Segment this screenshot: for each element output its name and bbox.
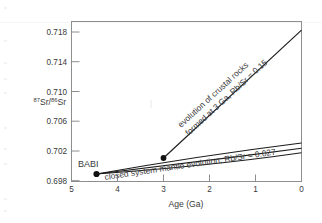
crustal-annotation-line1: evolution of crustal rocks (176, 60, 251, 130)
x-tick-label: 5 (69, 185, 74, 194)
babi-label: BABI (78, 159, 99, 169)
y-axis-title-sr-slash: Sr/ (40, 97, 52, 107)
svg-text:87Sr/86Sr: 87Sr/86Sr (34, 97, 67, 107)
x-tick-label: 0 (299, 185, 304, 194)
y-tick-label: 0.706 (47, 117, 68, 126)
mantle-annotation-line1: closed system mantle evolution; Rb/Sr = … (104, 146, 277, 182)
x-tick-label: 2 (207, 185, 212, 194)
y-tick-label: 0.710 (47, 88, 68, 97)
x-axis-title: Age (Ga) (169, 199, 204, 209)
x-tick-label: 3 (161, 185, 166, 194)
x-tick-label: 1 (253, 185, 258, 194)
crust-formation-data-point (161, 155, 167, 161)
y-tick-label: 0.714 (47, 58, 68, 67)
y-tick-label: 0.698 (47, 177, 68, 186)
crustal-evolution-annotation: evolution of crustal rocks formed at 3 G… (176, 49, 270, 138)
babi-data-point (93, 171, 99, 177)
y-tick-label: 0.702 (47, 147, 68, 156)
strontium-evolution-chart: 0.718 0.714 0.710 0.706 0.702 0.698 87Sr… (0, 0, 322, 223)
crustal-annotation-line2: formed at 3 Ga, Rb/Sr = 0.15 (183, 57, 269, 137)
x-axis-tick-labels: 5 4 3 2 1 0 (69, 185, 304, 194)
y-axis-title: 87Sr/86Sr (34, 97, 67, 107)
mantle-evolution-annotation: closed system mantle evolution; Rb/Sr = … (104, 146, 277, 182)
x-tick-label: 4 (115, 185, 120, 194)
y-axis-title-sr-end: Sr (57, 97, 66, 107)
y-tick-label: 0.718 (47, 28, 68, 37)
